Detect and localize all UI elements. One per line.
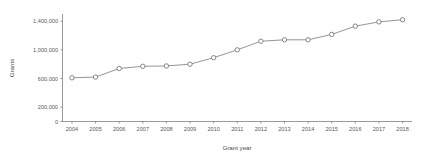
y-tick-label: 200,000 xyxy=(38,104,58,110)
x-tick-label: 2007 xyxy=(137,126,149,132)
x-tick-label: 2015 xyxy=(325,126,337,132)
data-point-marker xyxy=(211,56,215,60)
data-point-marker xyxy=(93,75,97,79)
data-point-marker xyxy=(353,24,357,28)
y-tick-label: 1,400,000 xyxy=(33,18,58,24)
x-tick-label: 2012 xyxy=(255,126,267,132)
data-point-marker xyxy=(235,48,239,52)
x-tick-label: 2017 xyxy=(373,126,385,132)
x-tick-label: 2014 xyxy=(302,126,314,132)
data-point-marker xyxy=(282,38,286,42)
x-axis-tick-labels: 2004200520062007200820092010201120122013… xyxy=(66,126,409,132)
data-point-marker xyxy=(306,38,310,42)
chart-figure: 0200,000600,0001,000,0001,400,000 200420… xyxy=(0,0,421,156)
data-point-marker xyxy=(400,18,404,22)
x-tick-label: 2008 xyxy=(160,126,172,132)
data-point-marker xyxy=(70,76,74,80)
x-tick-label: 2005 xyxy=(89,126,101,132)
line-chart-canvas: 0200,000600,0001,000,0001,400,000 200420… xyxy=(0,0,421,156)
data-point-marker xyxy=(141,64,145,68)
x-tick-label: 2018 xyxy=(396,126,408,132)
y-tick-label: 600,000 xyxy=(38,76,58,82)
x-tick-label: 2009 xyxy=(184,126,196,132)
data-point-marker xyxy=(330,32,334,36)
x-tick-label: 2004 xyxy=(66,126,78,132)
x-tick-label: 2013 xyxy=(278,126,290,132)
series-markers-grants xyxy=(70,18,405,80)
data-point-marker xyxy=(377,20,381,24)
x-tick-label: 2006 xyxy=(113,126,125,132)
x-tick-label: 2011 xyxy=(231,126,243,132)
x-tick-label: 2010 xyxy=(207,126,219,132)
y-tick-label: 1,000,000 xyxy=(33,47,58,53)
y-tick-label: 0 xyxy=(55,119,58,125)
x-tick-label: 2016 xyxy=(349,126,361,132)
y-axis-title: Grants xyxy=(8,59,15,78)
x-axis-title: Grant year xyxy=(222,144,251,151)
data-point-marker xyxy=(259,39,263,43)
y-axis-tick-labels: 0200,000600,0001,000,0001,400,000 xyxy=(33,18,58,124)
data-point-marker xyxy=(117,66,121,70)
data-point-marker xyxy=(164,64,168,68)
data-point-marker xyxy=(188,62,192,66)
